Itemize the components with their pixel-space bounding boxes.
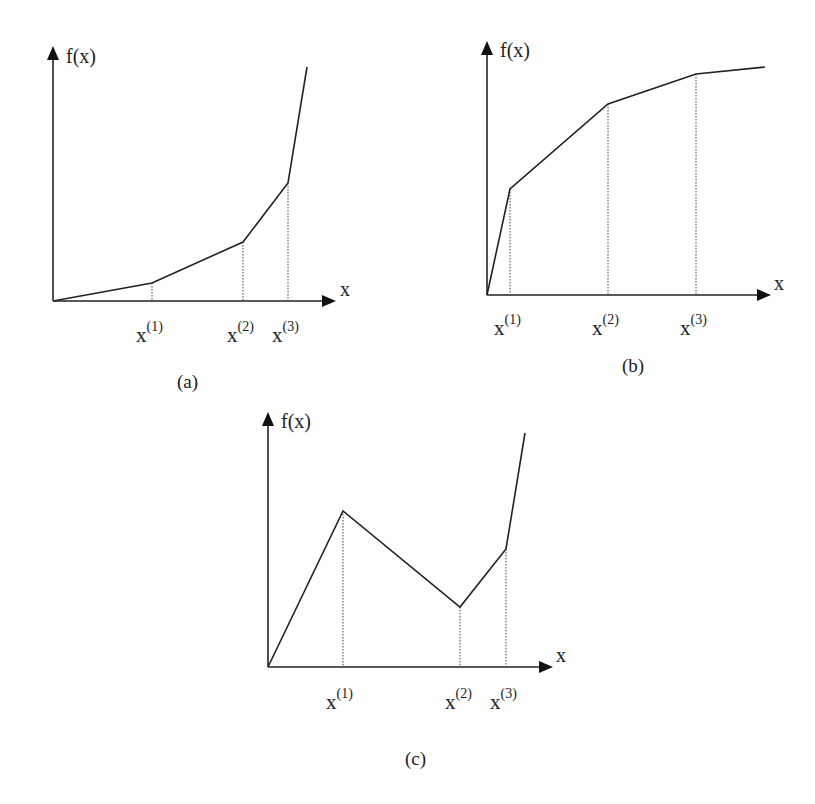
y-axis-label: f(x) bbox=[66, 45, 96, 68]
breakpoint-label-1: x(1) bbox=[326, 686, 353, 714]
panel-c: f(x) x x(1) x(2) x(3) (c) bbox=[262, 410, 566, 770]
breakpoint-label-3: x(3) bbox=[490, 686, 517, 714]
function-curve bbox=[268, 433, 525, 667]
panel-caption: (a) bbox=[177, 371, 198, 393]
y-axis-arrow-icon bbox=[481, 41, 493, 55]
breakpoint-label-1: x(1) bbox=[136, 319, 163, 347]
y-axis-arrow-icon bbox=[262, 412, 274, 426]
breakpoint-label-1: x(1) bbox=[494, 312, 521, 340]
panel-a: f(x) x x(1) x(2) x(3) (a) bbox=[47, 45, 350, 393]
panel-caption: (c) bbox=[405, 748, 426, 770]
x-axis-label: x bbox=[340, 278, 350, 300]
y-axis-label: f(x) bbox=[500, 39, 530, 62]
x-axis-label: x bbox=[774, 272, 784, 294]
breakpoint-label-3: x(3) bbox=[272, 319, 299, 347]
piecewise-linear-figure: f(x) x x(1) x(2) x(3) (a) f(x) x x(1) x(… bbox=[0, 0, 815, 804]
y-axis-label: f(x) bbox=[281, 410, 311, 433]
x-axis-arrow-icon bbox=[757, 289, 771, 301]
x-axis-arrow-icon bbox=[539, 661, 553, 673]
breakpoint-label-2: x(2) bbox=[445, 686, 472, 714]
function-curve bbox=[487, 67, 765, 295]
x-axis-label: x bbox=[556, 644, 566, 666]
x-axis-arrow-icon bbox=[322, 295, 336, 307]
panel-caption: (b) bbox=[622, 355, 644, 377]
breakpoint-label-2: x(2) bbox=[592, 312, 619, 340]
breakpoint-label-2: x(2) bbox=[227, 319, 254, 347]
breakpoint-label-3: x(3) bbox=[680, 312, 707, 340]
y-axis-arrow-icon bbox=[47, 46, 59, 60]
function-curve bbox=[53, 67, 307, 301]
panel-b: f(x) x x(1) x(2) x(3) (b) bbox=[481, 39, 784, 377]
